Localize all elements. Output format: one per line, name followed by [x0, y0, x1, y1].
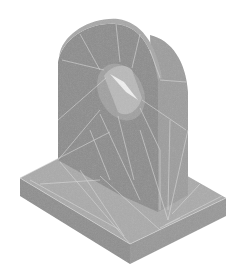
mesh-render [0, 0, 240, 270]
bracket-mesh [0, 0, 240, 270]
